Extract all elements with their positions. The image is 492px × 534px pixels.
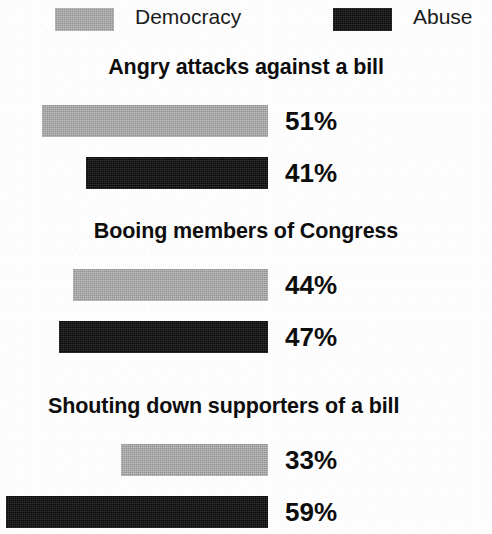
group-title: Angry attacks against a bill (0, 52, 492, 82)
bar-abuse (59, 321, 268, 353)
bar-democracy (73, 269, 268, 301)
bar-value-label: 51% (285, 103, 337, 139)
bar-row: 41% (0, 157, 492, 207)
bar-row: 33% (0, 444, 492, 494)
legend-swatch-abuse-icon (333, 8, 392, 31)
bar-value-label: 59% (285, 494, 337, 530)
group-title: Booing members of Congress (0, 216, 492, 246)
bar-democracy (42, 105, 268, 137)
legend-item-democracy: Democracy (55, 0, 241, 34)
bar-row: 47% (0, 321, 492, 371)
legend-swatch-democracy-icon (55, 8, 114, 31)
legend-label-abuse: Abuse (413, 0, 473, 34)
group-title: Shouting down supporters of a bill (48, 391, 492, 421)
grouped-bar-chart: Democracy Abuse Angry attacks against a … (0, 0, 492, 534)
bar-abuse (6, 496, 268, 528)
legend-item-abuse: Abuse (333, 0, 473, 34)
bar-row: 44% (0, 269, 492, 319)
bar-row: 59% (0, 496, 492, 534)
bar-value-label: 44% (285, 267, 337, 303)
legend-label-democracy: Democracy (135, 0, 241, 34)
bar-value-label: 41% (285, 155, 337, 191)
bar-abuse (86, 157, 268, 189)
bar-democracy (121, 444, 268, 476)
bar-value-label: 33% (285, 442, 337, 478)
bar-row: 51% (0, 105, 492, 155)
chart-legend: Democracy Abuse (0, 0, 492, 40)
bar-value-label: 47% (285, 319, 337, 355)
